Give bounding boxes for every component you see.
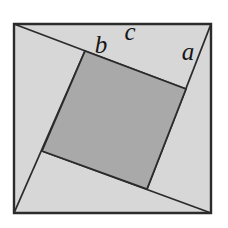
label-side-a: a	[182, 38, 195, 65]
label-side-c: c	[124, 18, 135, 45]
label-side-b: b	[95, 31, 108, 58]
diagram-canvas: b c a	[0, 0, 228, 228]
pythagorean-proof-figure: b c a	[0, 0, 228, 228]
